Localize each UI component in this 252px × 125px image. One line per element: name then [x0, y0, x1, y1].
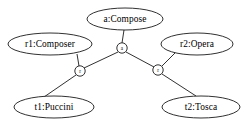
- node-a-compose[interactable]: a:Compose: [87, 8, 163, 30]
- connector-r-right-label: r: [157, 67, 159, 73]
- connector-r-left-label: r: [79, 68, 81, 74]
- edge-rleft-to-puccini: [44, 75, 76, 97]
- node-t1-puccini-label: t1:Puccini: [34, 102, 73, 112]
- connector-a[interactable]: a: [117, 43, 127, 53]
- edge-opera-to-r: [162, 53, 175, 66]
- node-t2-tosca[interactable]: t2:Tosca: [162, 96, 240, 118]
- connector-r-right[interactable]: r: [153, 65, 163, 75]
- node-t1-puccini[interactable]: t1:Puccini: [14, 96, 94, 118]
- edge-a-to-rleft: [84, 52, 118, 68]
- node-r1-composer-label: r1:Composer: [25, 39, 76, 49]
- node-a-compose-label: a:Compose: [103, 14, 146, 24]
- node-r2-opera[interactable]: r2:Opera: [161, 33, 233, 55]
- edge-compose-to-a: [122, 30, 124, 43]
- node-r1-composer[interactable]: r1:Composer: [8, 33, 92, 55]
- connector-r-left[interactable]: r: [75, 66, 85, 76]
- edge-a-to-rright: [126, 52, 154, 67]
- edge-rright-to-tosca: [162, 74, 196, 96]
- node-r2-opera-label: r2:Opera: [180, 39, 215, 49]
- edge-composer-to-r: [77, 54, 79, 66]
- node-t2-tosca-label: t2:Tosca: [185, 102, 218, 112]
- object-graph: a:Compose r1:Composer r2:Opera t1:Puccin…: [0, 0, 252, 125]
- diagram-canvas: a:Compose r1:Composer r2:Opera t1:Puccin…: [0, 0, 252, 125]
